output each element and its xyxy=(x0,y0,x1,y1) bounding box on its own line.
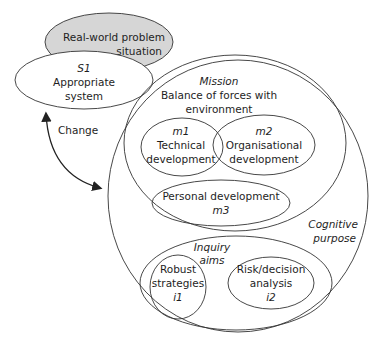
mission-title: Mission xyxy=(200,75,239,87)
problem-situation-line1: Real-world problem xyxy=(63,31,165,43)
i2-code: i2 xyxy=(266,291,276,303)
m3-code: m3 xyxy=(213,204,230,216)
m1-code: m1 xyxy=(173,125,190,137)
m1-technical-development-ellipse: m1 Technical development xyxy=(141,118,223,176)
m2-line2: development xyxy=(229,153,298,165)
s1-line2: system xyxy=(65,90,103,102)
diagram-canvas: Real-world problem situation S1 Appropri… xyxy=(0,0,369,345)
change-label: Change xyxy=(58,124,98,136)
m2-code: m2 xyxy=(256,125,273,137)
mission-line2: environment xyxy=(186,103,253,115)
i1-line1: Robust xyxy=(160,263,196,275)
s1-line1: Appropriate xyxy=(53,76,115,88)
m3-personal-development-ellipse: Personal development m3 xyxy=(152,180,290,226)
i1-code: i1 xyxy=(173,291,183,303)
m1-line1: Technical xyxy=(156,139,205,151)
cognitive-purpose-line1: Cognitive xyxy=(308,218,358,230)
inquiry-title-line2: aims xyxy=(199,254,225,266)
i1-line2: strategies xyxy=(152,277,204,289)
cognitive-purpose-line2: purpose xyxy=(312,232,356,244)
mission-line1: Balance of forces with xyxy=(161,89,277,101)
s1-appropriate-system-ellipse: S1 Appropriate system xyxy=(15,51,153,109)
change-arrow: Change xyxy=(46,114,100,188)
problem-situation-line2: situation xyxy=(116,45,162,57)
inquiry-title-line1: Inquiry xyxy=(194,241,231,253)
m2-organisational-development-ellipse: m2 Organisational development xyxy=(213,115,315,175)
m3-line1: Personal development xyxy=(162,190,279,202)
m1-line2: development xyxy=(146,153,215,165)
i2-line1: Risk/decision xyxy=(237,263,306,275)
i2-line2: analysis xyxy=(250,277,293,289)
s1-code: S1 xyxy=(77,62,90,74)
i1-robust-strategies-circle: Robust strategies i1 xyxy=(150,255,206,319)
m2-line1: Organisational xyxy=(226,139,302,151)
i2-risk-decision-analysis-ellipse: Risk/decision analysis i2 xyxy=(228,257,314,309)
